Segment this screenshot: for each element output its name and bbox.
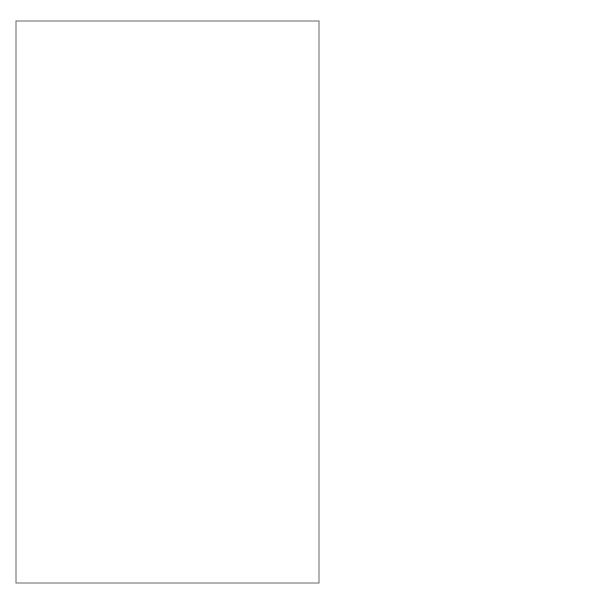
state-machine-diagram [0, 0, 610, 604]
diagram-frame [16, 21, 319, 583]
